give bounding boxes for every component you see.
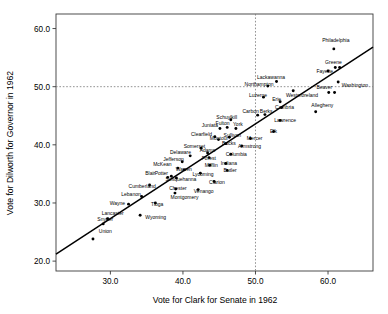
- data-point-label: Carbon: [242, 108, 259, 114]
- data-point-label: Fayette: [316, 68, 333, 74]
- data-point-label: Lawrence: [274, 117, 296, 123]
- data-point-marker: [333, 91, 336, 94]
- data-point-label: Armstrong: [238, 143, 261, 149]
- data-point-label: Lebanon: [121, 191, 141, 197]
- data-point-label: Berks: [260, 108, 273, 114]
- axis-ticks-layer: 30.040.050.060.020.030.040.050.060.0: [34, 25, 336, 286]
- data-point-marker: [275, 80, 278, 83]
- y-axis-title: Vote for Dilworth for Governor in 1962: [5, 71, 15, 215]
- data-point-label: McKean: [153, 161, 172, 167]
- data-point-label: Allegheny: [311, 102, 333, 108]
- data-point-label: Clarion: [209, 179, 225, 185]
- data-points-layer: [92, 47, 342, 240]
- y-axis-tick-label: 50.0: [34, 83, 50, 92]
- data-point-label: Fulton: [216, 120, 230, 126]
- data-point-marker: [334, 66, 337, 69]
- data-point-label: Northampton: [245, 81, 274, 87]
- data-point-label: Indiana: [221, 160, 238, 166]
- data-point-label: Warren: [176, 166, 192, 172]
- data-point-marker: [234, 127, 237, 130]
- data-point-label: Bucks: [222, 140, 236, 146]
- data-point-label: Greene: [325, 59, 342, 65]
- data-point-label: Snyder: [97, 216, 113, 222]
- data-point-label: Cumberland: [129, 183, 156, 189]
- data-point-marker: [92, 238, 95, 241]
- data-point-label: Philadelphia: [322, 37, 349, 43]
- data-point-label: Forest: [202, 155, 217, 161]
- point-labels-layer: UnionSnyderLancasterWayneLebanonWyomingT…: [97, 37, 368, 233]
- data-point-label: Beaver: [316, 84, 332, 90]
- x-axis-tick-label: 50.0: [248, 277, 264, 286]
- data-point-label: Adams: [200, 147, 216, 153]
- data-point-label: Butler: [224, 167, 237, 173]
- x-axis-tick-label: 40.0: [175, 277, 191, 286]
- data-point-label: Susquehanna: [166, 176, 197, 182]
- data-point-marker: [139, 214, 142, 217]
- data-point-label: Elk: [270, 128, 277, 134]
- data-point-label: Wayne: [110, 200, 126, 206]
- data-point-label: Cambria: [275, 104, 294, 110]
- data-point-label: Venango: [194, 188, 214, 194]
- x-axis-tick-label: 30.0: [102, 277, 118, 286]
- data-point-label: Lycoming: [192, 171, 213, 177]
- data-point-marker: [102, 222, 105, 225]
- data-point-label: Lancaster: [102, 210, 124, 216]
- data-point-label: Columbia: [226, 151, 247, 157]
- data-point-label: Mercer: [247, 135, 263, 141]
- data-point-label: York: [233, 121, 243, 127]
- data-point-label: Jefferson: [163, 156, 184, 162]
- data-point-marker: [337, 81, 340, 84]
- data-point-label: Union: [99, 228, 112, 234]
- data-point-label: Lackawanna: [257, 74, 285, 80]
- data-point-marker: [218, 127, 221, 130]
- data-point-label: Westmoreland: [286, 92, 318, 98]
- x-axis-title: Vote for Clark for Senate in 1962: [153, 295, 278, 305]
- y-axis-tick-label: 40.0: [34, 141, 50, 150]
- x-axis-tick-label: 60.0: [320, 277, 336, 286]
- data-point-label: Luzerne: [249, 92, 267, 98]
- data-point-marker: [226, 126, 229, 129]
- scatter-plot-figure: UnionSnyderLancasterWayneLebanonWyomingT…: [0, 0, 388, 314]
- chart-canvas: UnionSnyderLancasterWayneLebanonWyomingT…: [0, 0, 388, 314]
- data-point-label: Delaware: [170, 149, 191, 155]
- y-axis-tick-label: 30.0: [34, 199, 50, 208]
- data-point-label: Sullivan: [224, 132, 242, 138]
- data-point-marker: [338, 66, 341, 69]
- data-point-label: Mifflin: [205, 162, 218, 168]
- data-point-marker: [314, 110, 317, 113]
- data-point-label: Schuylkill: [216, 114, 237, 120]
- data-point-label: Chester: [169, 185, 187, 191]
- y-axis-tick-label: 20.0: [34, 257, 50, 266]
- data-point-label: Wyoming: [145, 214, 166, 220]
- data-point-marker: [327, 91, 330, 94]
- data-point-label: Erie: [272, 96, 281, 102]
- y-axis-tick-label: 60.0: [34, 25, 50, 34]
- data-point-label: Tioga: [151, 201, 164, 207]
- data-point-label: Montgomery: [171, 194, 199, 200]
- data-point-marker: [127, 203, 130, 206]
- data-point-label: Washington: [342, 82, 368, 88]
- data-point-marker: [332, 47, 335, 50]
